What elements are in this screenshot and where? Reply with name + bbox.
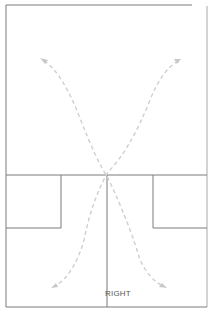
left-service-box <box>6 175 61 228</box>
right-service-box <box>153 175 207 228</box>
side-label: RIGHT <box>105 289 131 298</box>
court-diagram <box>0 0 221 313</box>
arrow-crosscourt-right-to-left <box>55 61 178 286</box>
arrow-crosscourt-left-to-right <box>44 61 163 286</box>
arrowhead-lower-left-icon <box>51 283 58 288</box>
